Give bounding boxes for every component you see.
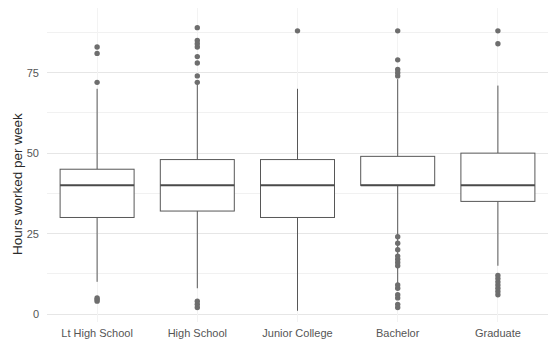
outlier-point (395, 28, 400, 33)
box-iqr (361, 156, 435, 185)
outlier-point (395, 253, 400, 258)
outlier-point (195, 80, 200, 85)
outlier-point (495, 28, 500, 33)
x-tick-label-3: Bachelor (376, 327, 420, 339)
plot-area: 0255075 Lt High SchoolHigh SchoolJunior … (0, 0, 555, 357)
box-iqr (261, 160, 335, 218)
box-group-0 (60, 89, 134, 282)
y-tick-label: 25 (27, 228, 39, 240)
y-tick-label: 0 (33, 308, 39, 320)
boxplot-chart: 0255075 Lt High SchoolHigh SchoolJunior … (0, 0, 555, 357)
x-tick-labels: Lt High SchoolHigh SchoolJunior CollegeB… (61, 327, 521, 339)
outlier-point (395, 234, 400, 239)
outlier-point (395, 57, 400, 62)
outlier-point (395, 67, 400, 72)
boxes-layer (60, 79, 535, 311)
y-tick-label: 50 (27, 147, 39, 159)
outlier-point (395, 247, 400, 252)
y-tick-label: 75 (27, 67, 39, 79)
outlier-point (295, 28, 300, 33)
outlier-point (495, 273, 500, 278)
x-tick-label-2: Junior College (262, 327, 332, 339)
y-axis-title: Hours worked per week (10, 113, 25, 255)
x-tick-label-4: Graduate (475, 327, 521, 339)
outlier-point (195, 38, 200, 43)
outlier-group-2 (295, 28, 300, 33)
outlier-point (94, 44, 99, 49)
box-iqr (60, 169, 134, 217)
outlier-point (495, 41, 500, 46)
outlier-point (395, 282, 400, 287)
x-tick-label-1: High School (168, 327, 227, 339)
box-iqr (461, 153, 535, 201)
outlier-point (395, 292, 400, 297)
outlier-point (94, 295, 99, 300)
box-group-2 (261, 89, 335, 311)
outlier-point (195, 298, 200, 303)
x-tick-label-0: Lt High School (61, 327, 133, 339)
outlier-point (94, 80, 99, 85)
outlier-point (195, 73, 200, 78)
outlier-point (395, 241, 400, 246)
y-tick-labels: 0255075 (27, 67, 39, 320)
outlier-point (94, 51, 99, 56)
outlier-point (195, 25, 200, 30)
outlier-point (195, 60, 200, 65)
outlier-point (395, 302, 400, 307)
outlier-point (195, 54, 200, 59)
